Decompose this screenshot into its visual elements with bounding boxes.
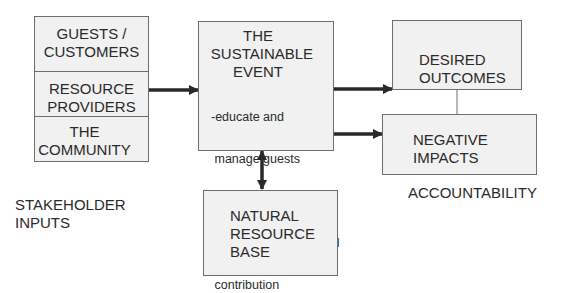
caption-line1: STAKEHOLDER [15,196,126,214]
event-bullet: contribution [211,278,340,292]
stakeholder-guests-line1: GUESTS / [35,25,148,43]
desired-outcomes-box: DESIRED OUTCOMES [392,20,522,90]
event-title: THE SUSTAINABLE EVENT [199,27,333,81]
sustainable-event-box: THE SUSTAINABLE EVENT -educate and manag… [198,21,334,151]
desired-line2: OUTCOMES [419,69,506,87]
stakeholder-resource-line2: PROVIDERS [35,98,148,116]
negative-impacts-text: NEGATIVE IMPACTS [413,131,488,167]
natural-resource-base-box: NATURAL RESOURCE BASE [203,190,338,276]
event-title-line2: SUSTAINABLE [199,45,325,63]
stakeholder-community-line2: COMMUNITY [35,141,134,159]
event-title-line3: EVENT [199,63,325,81]
event-bullet: manage guests [211,152,340,166]
stakeholder-inputs-caption: STAKEHOLDER INPUTS [15,196,126,232]
stakeholder-community: THE COMMUNITY [35,123,148,159]
natural-resource-text: NATURAL RESOURCE BASE [230,207,315,261]
event-title-line1: THE [199,27,325,45]
stakeholder-resource-providers: RESOURCE PROVIDERS [35,80,148,116]
desired-outcomes-text: DESIRED OUTCOMES [419,51,506,87]
negative-line2: IMPACTS [413,149,488,167]
caption-line2: INPUTS [15,214,126,232]
stakeholders-box: GUESTS / CUSTOMERS RESOURCE PROVIDERS TH… [34,16,149,162]
stakeholder-community-line1: THE [35,123,134,141]
event-bullet: -educate and [211,110,340,124]
natural-resource-line3: BASE [230,243,315,261]
stakeholder-divider-1 [35,71,148,72]
natural-resource-line1: NATURAL [230,207,315,225]
stakeholder-guests-line2: CUSTOMERS [35,43,148,61]
negative-impacts-box: NEGATIVE IMPACTS [382,114,537,175]
stakeholder-resource-line1: RESOURCE [35,80,148,98]
stakeholder-guests-customers: GUESTS / CUSTOMERS [35,25,148,61]
natural-resource-line2: RESOURCE [230,225,315,243]
negative-line1: NEGATIVE [413,131,488,149]
stakeholder-divider-2 [35,116,148,117]
desired-line1: DESIRED [419,51,506,69]
accountability-caption: ACCOUNTABILITY [408,184,537,202]
